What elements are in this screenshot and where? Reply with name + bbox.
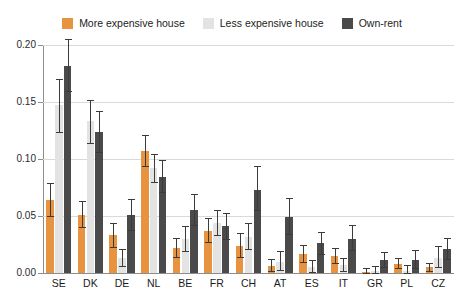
error-bar-cap-upper [363, 268, 370, 269]
error-bar-cap-upper [205, 218, 212, 219]
error-bar-cap-lower [395, 268, 402, 269]
error-bar-cap-lower [119, 266, 126, 267]
error-bar-cap-lower [56, 132, 63, 133]
y-axis-tick [38, 216, 43, 217]
error-bar-cap-lower [87, 143, 94, 144]
bar-group-at [268, 45, 293, 273]
error-bar-line [415, 250, 416, 268]
error-bar-cap-upper [191, 194, 198, 195]
error-bar-cap-upper [128, 199, 135, 200]
bar-group-cz [426, 45, 451, 273]
error-bar-line [185, 226, 186, 251]
error-bar-cap-upper [223, 213, 230, 214]
error-bar-cap-upper [56, 79, 63, 80]
error-bar-line [82, 201, 83, 227]
error-bar-cap-lower [340, 271, 347, 272]
bar-dk-less-expensive-house [87, 121, 95, 273]
error-bar-cap-upper [237, 233, 244, 234]
error-bar-line [194, 194, 195, 225]
error-bar-line [162, 160, 163, 192]
error-bar-cap-lower [300, 262, 307, 263]
bar-group-gr [362, 45, 387, 273]
error-bar-cap-upper [426, 263, 433, 264]
x-axis-tick-label-es: ES [296, 277, 328, 289]
error-bar-cap-upper [87, 100, 94, 101]
error-bar-cap-lower [426, 271, 433, 272]
error-bar-cap-lower [412, 268, 419, 269]
error-bar-line [50, 183, 51, 216]
error-bar-cap-lower [245, 249, 252, 250]
x-axis-tick-label-it: IT [328, 277, 360, 289]
error-bar-line [438, 246, 439, 268]
y-axis-tick-label: 0.00 [4, 267, 36, 278]
error-bar-line [68, 39, 69, 90]
error-bar-cap-upper [404, 265, 411, 266]
x-axis-tick-label-nl: NL [138, 277, 170, 289]
legend-item-own: Own-rent [342, 18, 402, 29]
y-axis-tick [38, 159, 43, 160]
error-bar-cap-lower [65, 91, 72, 92]
legend-swatch-own [342, 18, 353, 29]
error-bar-cap-lower [110, 247, 117, 248]
error-bar-cap-upper [435, 246, 442, 247]
error-bar-cap-lower [142, 166, 149, 167]
error-bar-cap-lower [268, 271, 275, 272]
error-bar-line [208, 218, 209, 242]
error-bar-cap-upper [245, 223, 252, 224]
error-bar-cap-lower [349, 250, 356, 251]
error-bar-cap-upper [395, 258, 402, 259]
error-bar-line [447, 238, 448, 260]
error-bar-cap-lower [128, 230, 135, 231]
bar-group-pl [394, 45, 419, 273]
x-axis-tick-label-de: DE [106, 277, 138, 289]
error-bar-line [335, 248, 336, 263]
bar-group-es [299, 45, 324, 273]
error-bar-line [280, 251, 281, 269]
bar-group-se [46, 45, 71, 273]
bar-nl-more-expensive-house [141, 151, 149, 273]
x-axis-line [43, 273, 454, 274]
bar-se-own-rent [64, 66, 72, 273]
error-bar-cap-lower [237, 257, 244, 258]
error-bar-cap-upper [268, 259, 275, 260]
error-bar-line [240, 233, 241, 257]
error-bar-line [271, 259, 272, 270]
bar-group-dk [78, 45, 103, 273]
error-bar-cap-upper [96, 111, 103, 112]
error-bar-line [90, 100, 91, 143]
x-axis-tick-label-fr: FR [201, 277, 233, 289]
error-bar-cap-lower [151, 182, 158, 183]
error-bar-line [248, 223, 249, 249]
error-bar-line [257, 166, 258, 210]
bar-group-nl [141, 45, 166, 273]
error-bar-line [226, 213, 227, 239]
error-bar-cap-upper [65, 39, 72, 40]
error-bar-cap-upper [444, 238, 451, 239]
error-bar-cap-upper [300, 245, 307, 246]
error-bar-cap-lower [173, 257, 180, 258]
x-axis-tick-label-at: AT [264, 277, 296, 289]
x-axis-tick-label-ch: CH [233, 277, 265, 289]
y-axis-tick [38, 102, 43, 103]
error-bar-cap-upper [151, 154, 158, 155]
y-axis-tick-label: 0.10 [4, 153, 36, 164]
legend-label-own: Own-rent [359, 18, 402, 29]
error-bar-cap-lower [254, 210, 261, 211]
bar-nl-less-expensive-house [150, 168, 158, 273]
error-bar-line [131, 199, 132, 230]
error-bar-line [429, 263, 430, 271]
error-bar-cap-lower [47, 216, 54, 217]
error-bar-line [352, 225, 353, 250]
error-bar-line [99, 111, 100, 152]
error-bar-cap-upper [182, 226, 189, 227]
y-axis-labels: 0.000.050.100.150.20 [0, 45, 36, 274]
error-bar-line [145, 135, 146, 166]
error-bar-cap-upper [110, 223, 117, 224]
error-bar-line [289, 198, 290, 234]
error-bar-cap-lower [96, 152, 103, 153]
y-axis-tick-label: 0.05 [4, 210, 36, 221]
error-bar-line [176, 238, 177, 257]
y-axis-tick-label: 0.15 [4, 96, 36, 107]
error-bar-cap-upper [79, 201, 86, 202]
error-bar-cap-upper [277, 251, 284, 252]
